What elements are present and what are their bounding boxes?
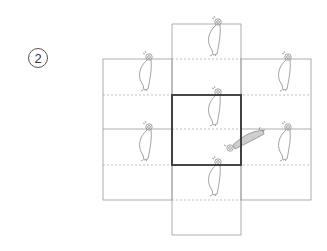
dashed-fold-lines (103, 59, 311, 200)
penguin-figure-left-top (140, 51, 153, 91)
penguin-figure-left-bottom (140, 121, 153, 161)
highlighted-center-square (172, 95, 241, 165)
penguin-figure-right-bottom (279, 121, 292, 161)
penguin-figure-center-top (209, 16, 222, 56)
tile-layout-diagram (0, 0, 327, 251)
penguin-figure-center-bottom (209, 156, 222, 196)
penguin-figure-center-middle (209, 86, 222, 126)
right-panel-outline (241, 59, 311, 200)
penguin-figure-rotated (224, 127, 265, 151)
penguin-figure-right-top (279, 51, 292, 91)
center-column-outline (172, 24, 241, 235)
left-panel-outline (103, 59, 172, 200)
